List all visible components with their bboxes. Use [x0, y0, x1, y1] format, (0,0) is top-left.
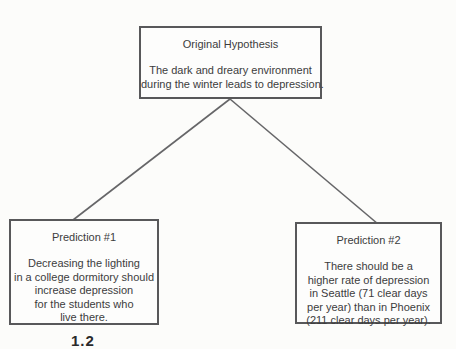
prediction2-box: Prediction #2 There should be a higher r… — [295, 222, 442, 324]
prediction1-body-line: in a college dormitory should — [11, 271, 157, 285]
prediction1-box: Prediction #1 Decreasing the lighting in… — [9, 219, 159, 325]
connector-line-right — [230, 99, 378, 224]
prediction2-body: There should be a higher rate of depress… — [297, 260, 440, 328]
hypothesis-box: Original Hypothesis The dark and dreary … — [139, 26, 322, 99]
connector-line-left — [73, 99, 230, 220]
prediction2-body-line: There should be a — [297, 260, 440, 274]
prediction1-body-line: Decreasing the lighting — [11, 257, 157, 271]
clipped-figure-caption: 1.2 — [71, 332, 95, 349]
prediction1-body-line: for the students who — [11, 298, 157, 312]
hypothesis-title: Original Hypothesis — [141, 38, 320, 51]
prediction2-title: Prediction #2 — [297, 234, 440, 247]
prediction2-body-line: per year) than in Phoenix — [297, 301, 440, 315]
prediction2-body-line: (211 clear days per year). — [297, 314, 440, 328]
hypothesis-body-line: The dark and dreary environment — [141, 64, 320, 78]
prediction1-body: Decreasing the lighting in a college dor… — [11, 257, 157, 325]
prediction1-title: Prediction #1 — [11, 231, 157, 244]
prediction2-body-line: in Seattle (71 clear days — [297, 287, 440, 301]
prediction2-body-line: higher rate of depression — [297, 274, 440, 288]
prediction1-body-line: live there. — [11, 311, 157, 325]
hypothesis-body-line: during the winter leads to depression. — [141, 78, 320, 92]
prediction1-body-line: increase depression — [11, 284, 157, 298]
hypothesis-body: The dark and dreary environment during t… — [141, 64, 320, 91]
